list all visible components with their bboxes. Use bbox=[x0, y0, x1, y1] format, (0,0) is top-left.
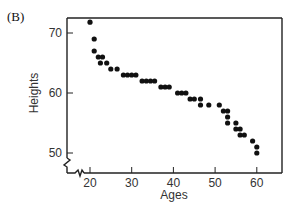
data-point bbox=[233, 120, 238, 125]
x-axis-ticks: 2030405060 bbox=[83, 167, 263, 190]
data-point bbox=[108, 66, 113, 71]
y-tick-label: 60 bbox=[49, 86, 63, 100]
x-tick-label: 30 bbox=[125, 176, 139, 190]
y-tick-label: 70 bbox=[49, 26, 63, 40]
data-point bbox=[92, 36, 97, 41]
scatter-chart: 506070 2030405060 Ages Heights bbox=[0, 0, 290, 209]
data-point bbox=[250, 138, 255, 143]
data-point bbox=[92, 48, 97, 53]
data-point bbox=[98, 60, 103, 65]
data-point bbox=[198, 102, 203, 107]
data-point bbox=[238, 126, 243, 131]
data-point bbox=[225, 114, 230, 119]
data-point bbox=[133, 72, 138, 77]
x-axis-break bbox=[67, 170, 84, 176]
data-point bbox=[167, 84, 172, 89]
y-tick-label: 50 bbox=[49, 146, 63, 160]
data-points bbox=[87, 20, 259, 156]
data-point bbox=[225, 120, 230, 125]
data-point bbox=[100, 54, 105, 59]
y-axis-break bbox=[64, 158, 70, 173]
data-point bbox=[254, 144, 259, 149]
y-axis-title: Heights bbox=[27, 73, 41, 114]
data-point bbox=[198, 96, 203, 101]
plot-frame bbox=[64, 18, 282, 176]
data-point bbox=[206, 102, 211, 107]
x-tick-label: 50 bbox=[208, 176, 222, 190]
data-point bbox=[104, 60, 109, 65]
data-point bbox=[115, 66, 120, 71]
x-axis-title: Ages bbox=[160, 188, 187, 202]
x-tick-label: 60 bbox=[250, 176, 264, 190]
data-point bbox=[242, 132, 247, 137]
data-point bbox=[254, 150, 259, 155]
data-point bbox=[152, 78, 157, 83]
data-point bbox=[87, 20, 92, 25]
data-point bbox=[192, 96, 197, 101]
data-point bbox=[183, 90, 188, 95]
x-tick-label: 20 bbox=[83, 176, 97, 190]
data-point bbox=[217, 102, 222, 107]
data-point bbox=[225, 108, 230, 113]
y-axis-ticks: 506070 bbox=[49, 26, 73, 160]
